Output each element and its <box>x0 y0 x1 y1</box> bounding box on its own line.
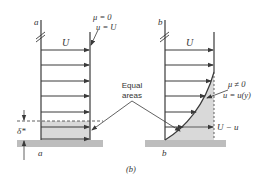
deficit-area-b <box>165 72 214 140</box>
velocity-label-b: U <box>186 37 194 48</box>
panel-a: a U μ = 0 u = U δ* a <box>17 12 117 160</box>
velocity-label-a: U <box>62 37 70 48</box>
boundary-layer-diagram: a U μ = 0 u = U δ* a <box>0 0 268 180</box>
wall-label-a-bottom: a <box>38 148 43 158</box>
equal-areas-leader-left <box>92 101 132 130</box>
mu-label-b: μ ≠ 0 <box>227 79 246 89</box>
panel-b: b U μ ≠ 0 u = u(y) U − u b <box>145 17 251 158</box>
wall-label-b-bottom: b <box>162 148 167 158</box>
u-label-a: u = U <box>96 22 117 32</box>
u-label-b: u = u(y) <box>223 90 251 100</box>
ground-a <box>17 140 103 147</box>
equal-areas-line1: Equal <box>122 81 143 90</box>
ground-b <box>145 140 226 147</box>
displacement-area-a <box>41 121 90 140</box>
wall-label-a-top: a <box>34 17 39 27</box>
equal-areas-leader-right <box>132 101 180 131</box>
equal-areas-line2: areas <box>122 91 142 100</box>
mu-label-a: μ = 0 <box>92 12 112 22</box>
deficit-label: U − u <box>217 122 239 132</box>
figure-caption: (b) <box>126 164 136 174</box>
equal-areas-callout: Equal areas <box>92 81 180 131</box>
delta-star-label: δ* <box>17 126 26 136</box>
annotation-leader-a <box>91 30 98 45</box>
wall-label-b-top: b <box>158 17 163 27</box>
